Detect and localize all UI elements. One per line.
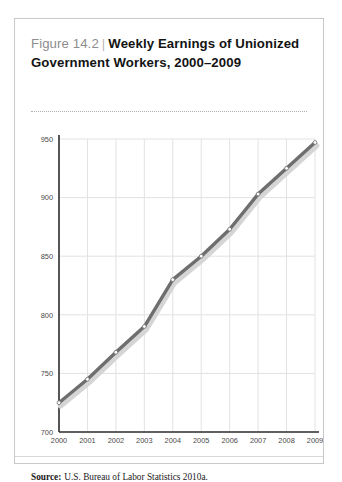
svg-text:2005: 2005 xyxy=(193,436,209,445)
svg-text:2003: 2003 xyxy=(136,436,152,445)
svg-text:2002: 2002 xyxy=(108,436,124,445)
svg-text:2006: 2006 xyxy=(221,436,237,445)
chart-plot-area: 700750800850900950 200020012002200320042… xyxy=(15,119,323,449)
svg-text:950: 950 xyxy=(41,135,53,144)
svg-text:2009: 2009 xyxy=(307,436,323,445)
svg-text:2007: 2007 xyxy=(250,436,266,445)
y-axis-ticks: 700750800850900950 xyxy=(41,135,53,437)
svg-text:2000: 2000 xyxy=(51,436,67,445)
source-text: U.S. Bureau of Labor Statistics 2010a. xyxy=(61,472,208,482)
svg-text:800: 800 xyxy=(41,311,53,320)
source-label: Source: xyxy=(31,472,61,482)
svg-text:2001: 2001 xyxy=(79,436,95,445)
line-chart: 700750800850900950 200020012002200320042… xyxy=(15,119,323,449)
figure-number: Figure 14.2 xyxy=(31,36,99,51)
svg-text:850: 850 xyxy=(41,252,53,261)
source-divider xyxy=(15,456,323,457)
figure-title: Figure 14.2|Weekly Earnings of Unionized… xyxy=(31,34,303,72)
svg-text:2004: 2004 xyxy=(165,436,181,445)
source-note: Source:U.S. Bureau of Labor Statistics 2… xyxy=(31,471,309,482)
x-axis-ticks: 2000200120022003200420052006200720082009 xyxy=(51,436,323,445)
svg-text:2008: 2008 xyxy=(278,436,294,445)
figure-card: Figure 14.2|Weekly Earnings of Unionized… xyxy=(14,18,324,464)
svg-text:750: 750 xyxy=(41,369,53,378)
figure-title-separator: | xyxy=(99,36,109,51)
title-divider xyxy=(31,111,307,112)
svg-text:900: 900 xyxy=(41,193,53,202)
